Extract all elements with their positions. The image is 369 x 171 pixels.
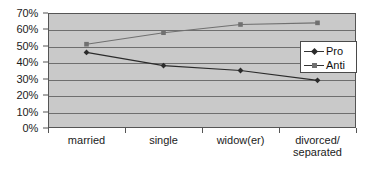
legend-entry-anti[interactable]: Anti (304, 58, 353, 72)
x-tick-label-line1: widow(er) (217, 134, 265, 146)
chart-legend[interactable]: Pro Anti (300, 41, 357, 73)
x-tick-label-line1: married (68, 134, 105, 146)
y-tick-label-0: 0% (23, 122, 39, 134)
y-tick-label-40: 40% (17, 56, 38, 68)
x-tick-mark-3 (279, 128, 280, 133)
legend-entry-pro[interactable]: Pro (304, 44, 353, 58)
y-tick-mark-40 (43, 62, 48, 63)
legend-label-pro: Pro (326, 45, 343, 57)
y-tick-label-20: 20% (17, 89, 38, 101)
x-tick-label-single: single (149, 134, 178, 146)
x-tick-mark-2 (202, 128, 203, 133)
y-tick-label-60: 60% (17, 23, 38, 35)
x-tick-label-divorced-separated: divorced/ separated (293, 134, 342, 158)
y-tick-mark-10 (43, 111, 48, 112)
y-tick-label-50: 50% (17, 40, 38, 52)
gridline-60 (49, 30, 355, 31)
x-tick-mark-0 (48, 128, 49, 133)
gridline-30 (49, 80, 355, 81)
x-tick-mark-1 (125, 128, 126, 133)
y-axis: 70% 60% 50% 40% 30% 20% 10% 0% (0, 0, 44, 141)
y-tick-label-30: 30% (17, 73, 38, 85)
y-tick-mark-60 (43, 29, 48, 30)
chart-container: 70% 60% 50% 40% 30% 20% 10% 0% married s… (0, 0, 369, 171)
diamond-marker-icon (304, 46, 324, 56)
x-tick-label-line1: single (149, 134, 178, 146)
x-tick-label-married: married (68, 134, 105, 146)
x-tick-mark-4 (356, 128, 357, 133)
y-tick-mark-70 (43, 13, 48, 14)
y-tick-label-10: 10% (17, 106, 38, 118)
y-tick-mark-20 (43, 95, 48, 96)
y-tick-mark-30 (43, 78, 48, 79)
square-marker-icon (304, 60, 324, 70)
y-tick-label-70: 70% (17, 7, 38, 19)
x-tick-label-line1: divorced/ (293, 134, 342, 146)
y-tick-mark-50 (43, 45, 48, 46)
gridline-20 (49, 96, 355, 97)
legend-label-anti: Anti (326, 59, 345, 71)
x-tick-label-line2: separated (293, 146, 342, 158)
x-tick-label-widower: widow(er) (217, 134, 265, 146)
gridline-10 (49, 113, 355, 114)
